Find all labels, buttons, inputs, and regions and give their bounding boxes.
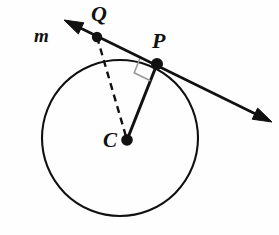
line-m-arrowhead-right (252, 108, 272, 122)
point-q-dot (92, 32, 102, 42)
point-c-dot (121, 134, 133, 146)
label-point-p: P (152, 30, 165, 52)
line-m-arrowhead-left (64, 20, 84, 34)
label-point-q: Q (91, 3, 107, 25)
segment-pc (127, 64, 157, 140)
circle-C (42, 60, 198, 216)
segment-qc (97, 37, 127, 140)
label-point-c: C (103, 130, 117, 151)
point-p-dot (151, 58, 163, 70)
geometry-diagram: m Q P C (0, 0, 279, 235)
label-line-m: m (34, 26, 49, 45)
